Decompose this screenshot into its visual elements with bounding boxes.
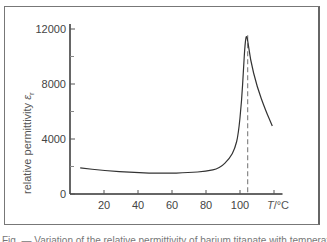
- y-tick-label: 8000: [42, 78, 66, 90]
- x-axis-label: T/°C: [267, 199, 289, 211]
- x-tick-label: 40: [132, 199, 144, 211]
- y-axis-label: relative permittivity εr: [21, 92, 36, 194]
- x-tick-label: 80: [200, 199, 212, 211]
- permittivity-curve: [80, 37, 272, 174]
- x-tick-label: 60: [166, 199, 178, 211]
- y-tick-label: 0: [60, 188, 66, 200]
- x-tick-label: 100: [231, 199, 249, 211]
- y-tick-label: 12000: [35, 23, 66, 35]
- y-tick-label: 4000: [42, 133, 66, 145]
- x-tick-label: 20: [98, 199, 110, 211]
- figure-caption: Fig. — Variation of the relative permitt…: [2, 235, 327, 242]
